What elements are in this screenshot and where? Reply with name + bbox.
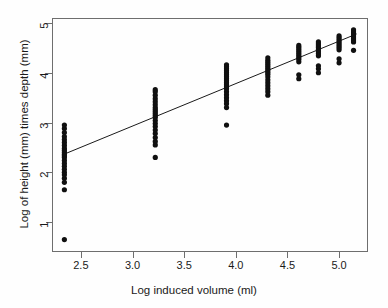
- y-tick-label: 5: [39, 22, 50, 38]
- y-tick-label: 4: [39, 72, 50, 88]
- x-tick-label: 3.0: [113, 259, 153, 271]
- x-tick-mark: [339, 252, 340, 258]
- y-axis-title: Log of height (mm) times depth (mm): [18, 24, 30, 244]
- x-tick-label: 5.0: [319, 259, 359, 271]
- x-tick-label: 3.5: [164, 259, 204, 271]
- x-tick-label: 4.5: [267, 259, 307, 271]
- y-tick-label: 3: [39, 122, 50, 138]
- x-axis-title: Log induced volume (ml): [0, 284, 388, 296]
- x-tick-mark: [184, 252, 185, 258]
- y-tick-label: 2: [39, 172, 50, 188]
- scatter-plot-figure: 12345 2.53.03.54.04.55.0 Log induced vol…: [0, 0, 388, 308]
- x-tick-mark: [236, 252, 237, 258]
- x-tick-label: 4.0: [216, 259, 256, 271]
- x-tick-label: 2.5: [61, 259, 101, 271]
- plot-area-frame: [52, 18, 368, 252]
- x-tick-mark: [81, 252, 82, 258]
- y-tick-label: 1: [39, 222, 50, 238]
- x-tick-mark: [133, 252, 134, 258]
- x-tick-mark: [287, 252, 288, 258]
